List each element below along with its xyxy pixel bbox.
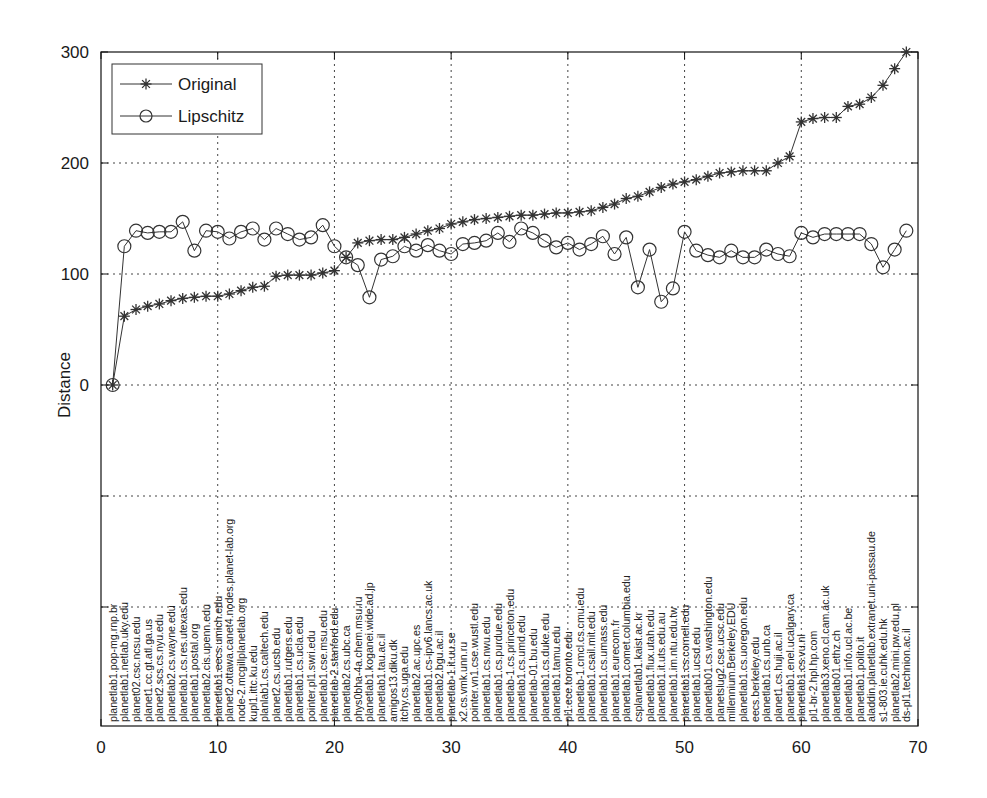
host-label: eecs.berkeley.edu — [749, 637, 761, 722]
asterisk-marker — [247, 282, 258, 293]
asterisk-marker — [446, 219, 457, 230]
asterisk-marker — [761, 165, 772, 176]
host-label: planetlab1.postal.org — [188, 624, 200, 722]
asterisk-marker — [481, 213, 492, 224]
host-label: planetlab1.pop-mg.rnp.br — [107, 603, 119, 722]
host-label: planet1.cs.huji.ac.il — [772, 632, 784, 722]
host-label: planetlab1.info.ucl.ac.be — [842, 608, 854, 722]
asterisk-marker — [621, 193, 632, 204]
host-label: planetlab1.cs.nwu.edu — [480, 616, 492, 722]
asterisk-marker — [131, 304, 142, 315]
asterisk-marker — [539, 209, 550, 220]
host-label: planetlab1.enel.ucalgary.ca — [784, 594, 796, 722]
host-label: planetlab1.koganei.wide.ad.jp — [363, 582, 375, 722]
host-label: pl1.ece.toronto.edu — [562, 631, 574, 722]
x-tick-label: 0 — [96, 738, 105, 757]
asterisk-marker — [772, 158, 783, 169]
asterisk-marker — [702, 171, 713, 182]
asterisk-marker — [119, 311, 130, 322]
y-axis-label: Distance — [55, 352, 74, 418]
asterisk-marker — [189, 292, 200, 303]
host-label: planetlab1.polito.it — [854, 637, 866, 722]
asterisk-marker — [212, 291, 223, 302]
asterisk-marker — [271, 271, 282, 282]
asterisk-marker — [679, 176, 690, 187]
asterisk-marker — [177, 293, 188, 304]
asterisk-marker — [387, 234, 398, 245]
host-labels: planetlab1.pop-mg.rnp.brplanetlab1.netla… — [107, 519, 913, 722]
host-label: planetslug2.cse.ucsc.edu — [714, 603, 726, 722]
asterisk-marker — [141, 79, 152, 90]
host-label: planetlab2.bgu.ac.il — [433, 631, 445, 722]
asterisk-marker — [469, 214, 480, 225]
x-tick-label: 70 — [909, 738, 928, 757]
host-label: planetlab1.cs-ipv6.lancs.ac.uk — [422, 580, 434, 722]
host-label: planet2.scs.cs.nyu.edu — [153, 614, 165, 722]
host-label: planetlab1.eecs.umich.edu — [212, 596, 224, 722]
legend: Original Lipschitz — [112, 64, 262, 134]
asterisk-marker — [796, 116, 807, 127]
host-label: planetlab1.csail.mit.edu — [585, 611, 597, 722]
asterisk-marker — [656, 182, 667, 193]
host-label: x2.cs.vmk.unn.ru — [457, 642, 469, 722]
host-label: planet2.cs.ucsb.edu — [270, 628, 282, 722]
asterisk-marker — [691, 174, 702, 185]
asterisk-marker — [457, 216, 468, 227]
host-label: planetlab01.ethz.ch — [830, 630, 842, 722]
asterisk-marker — [434, 223, 445, 234]
host-label: millennium.Berkeley.EDU — [725, 603, 737, 722]
host-label: planetlab-1.cmcl.cs.cmu.edu — [574, 588, 586, 722]
asterisk-marker — [667, 179, 678, 190]
asterisk-marker — [201, 291, 212, 302]
asterisk-marker — [726, 166, 737, 177]
host-label: planetlab1.flux.utah.edu — [644, 609, 656, 722]
host-label: planetlab1.cs.umass.edu — [597, 605, 609, 722]
asterisk-marker — [236, 285, 247, 296]
asterisk-marker — [807, 113, 818, 124]
y-tick-label: 100 — [61, 265, 89, 284]
host-label: planetlab2.ac.upc.es — [410, 625, 422, 722]
asterisk-marker — [551, 207, 562, 218]
host-label: pointer.pl1.swri.edu — [305, 631, 317, 722]
host-label: planetlab1.cs.res.utexas.edu — [177, 587, 189, 722]
host-label: planetlab2.cis.upenn.edu — [200, 604, 212, 722]
x-tick-label: 40 — [558, 738, 577, 757]
host-label: planetlab2.mini.pw.edu.pl — [889, 603, 901, 722]
host-label: planetlab1.it.uts.edu.au — [655, 612, 667, 722]
asterisk-marker — [492, 212, 503, 223]
asterisk-marker — [842, 101, 853, 112]
host-label: planet1.cc.gt.atl.ga.us — [142, 619, 154, 722]
asterisk-marker — [306, 270, 317, 281]
host-label: planetlab1.tau.ac.il — [375, 634, 387, 722]
host-label: planetlab2.cs.wayne.edu — [165, 605, 177, 722]
host-label: planetlab-2.stanford.edu — [328, 608, 340, 722]
host-label: itchy.cs.uga.edu — [398, 646, 410, 722]
line-chart: planetlab1.pop-mg.rnp.brplanetlab1.netla… — [0, 0, 987, 798]
host-label: planetlab1.eurecom.fr — [609, 619, 621, 722]
host-label: s1-803.ie.cuhk.edu.hk — [877, 618, 889, 722]
host-label: planetlab1.rutgers.edu — [282, 616, 294, 722]
host-label: planetlab1.cs.ucla.edu — [293, 616, 305, 722]
asterisk-marker — [504, 211, 515, 222]
asterisk-marker — [422, 225, 433, 236]
host-label: planetlab01.cs.washington.edu — [702, 576, 714, 722]
asterisk-marker — [364, 235, 375, 246]
asterisk-marker — [224, 288, 235, 299]
host-label: planetlab3.xeno.cl.cam.ac.uk — [819, 585, 831, 722]
asterisk-marker — [632, 191, 643, 202]
asterisk-marker — [877, 80, 888, 91]
host-label: planetlab1.tamu.edu — [550, 626, 562, 722]
asterisk-marker — [574, 206, 585, 217]
asterisk-marker — [142, 301, 153, 312]
asterisk-marker — [866, 92, 877, 103]
asterisk-marker — [352, 237, 363, 248]
legend-label-lipschitz: Lipschitz — [178, 107, 244, 126]
host-label: planetlab2.cs.ubc.ca — [340, 625, 352, 722]
asterisk-marker — [562, 207, 573, 218]
asterisk-marker — [376, 234, 387, 245]
host-label: planetlab1.comet.columbia.edu — [620, 575, 632, 722]
asterisk-marker — [516, 210, 527, 221]
x-tick-label: 60 — [792, 738, 811, 757]
host-label: planetlab1.ucsd.edu — [690, 627, 702, 722]
host-label: planetlab1.im.ntu.edu.tw — [667, 607, 679, 722]
